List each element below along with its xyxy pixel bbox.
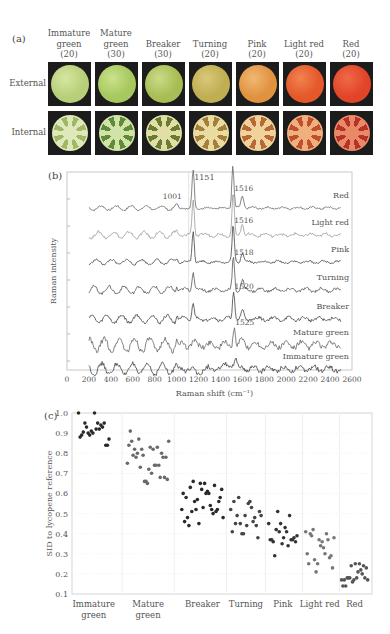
- stage-name-line2: Turning: [186, 39, 234, 50]
- x-category-label: Pink: [273, 599, 293, 609]
- data-point: [354, 562, 358, 566]
- x-category-label: Red: [346, 599, 363, 609]
- data-point: [107, 437, 111, 441]
- data-point: [232, 500, 236, 504]
- data-point: [285, 530, 289, 534]
- stage-header: Turning(20): [186, 28, 234, 60]
- stage-sample-count: (20): [233, 49, 281, 60]
- data-point: [189, 486, 193, 490]
- series-label: Red: [333, 191, 349, 200]
- spectrum-line: [89, 257, 341, 294]
- data-point: [137, 437, 141, 441]
- tomato-exterior: [333, 65, 371, 103]
- stage-header: Breaker(30): [139, 28, 187, 60]
- y-tick-label: 0.4: [55, 530, 68, 539]
- x-tick-label: 2200: [299, 375, 318, 384]
- data-point: [313, 558, 317, 562]
- stage-name-line1: Mature: [92, 28, 140, 39]
- data-point: [194, 508, 198, 512]
- tomato-cross-section: [240, 115, 276, 151]
- y-axis-label: SID to lycopene reference: [45, 450, 54, 556]
- data-point: [273, 554, 277, 558]
- data-point: [211, 512, 215, 516]
- data-point: [229, 508, 233, 512]
- data-point: [101, 425, 105, 429]
- data-point: [85, 425, 89, 429]
- data-point: [183, 520, 187, 524]
- y-tick-label: 0.3: [55, 550, 68, 559]
- series-label: Light red: [311, 218, 349, 227]
- data-point: [245, 524, 249, 528]
- data-point: [197, 522, 201, 526]
- x-category-label: green: [136, 610, 162, 620]
- data-point: [203, 482, 207, 486]
- data-point: [106, 443, 110, 447]
- external-photo: [189, 62, 232, 106]
- data-point: [139, 466, 143, 470]
- series-label: Turning: [317, 273, 349, 282]
- stage-name-line1: [139, 28, 187, 39]
- stage-header: Red(20): [327, 28, 375, 60]
- data-point: [344, 584, 348, 588]
- data-point: [282, 536, 286, 540]
- x-tick-label: 2600: [342, 375, 361, 384]
- data-point: [280, 542, 284, 546]
- x-tick-label: 1400: [211, 375, 230, 384]
- data-point: [180, 508, 184, 512]
- data-point: [271, 540, 275, 544]
- data-point: [292, 536, 296, 540]
- data-point: [326, 538, 330, 542]
- data-point: [274, 528, 278, 532]
- data-point: [187, 524, 191, 528]
- data-point: [348, 576, 352, 580]
- stage-name-line2: green: [45, 39, 93, 50]
- data-point: [91, 431, 95, 435]
- y-tick-label: 1.0: [55, 409, 68, 418]
- peak-annotation: 1513: [234, 165, 253, 166]
- data-point: [304, 530, 308, 534]
- data-point: [134, 455, 138, 459]
- peak-annotation: 1516: [234, 184, 253, 193]
- stage-sample-count: (30): [92, 49, 140, 60]
- raman-spectra-chart: 0200400600800100012001400160018002000220…: [0, 165, 390, 405]
- row-label-external: External: [2, 78, 46, 88]
- data-point: [325, 532, 329, 536]
- y-tick-label: 0.7: [55, 469, 68, 478]
- data-point: [166, 478, 170, 482]
- x-tick-label: 2400: [321, 375, 340, 384]
- data-point: [305, 552, 309, 556]
- tomato-cross-section: [146, 115, 182, 151]
- x-category-label: Light red: [300, 599, 340, 609]
- data-point: [250, 506, 254, 510]
- y-tick-label: 0.8: [55, 449, 68, 458]
- stage-sample-count: (20): [327, 49, 375, 60]
- row-label-internal: Internal: [2, 127, 46, 137]
- y-tick-label: 0.1: [55, 590, 68, 599]
- stage-sample-count: (20): [280, 49, 328, 60]
- data-point: [323, 552, 327, 556]
- data-point: [316, 562, 320, 566]
- x-tick-label: 0: [65, 375, 70, 384]
- data-point: [94, 427, 98, 431]
- spectrum-line: [89, 292, 341, 324]
- x-tick-label: 1200: [189, 375, 208, 384]
- data-point: [146, 482, 150, 486]
- data-point: [167, 439, 171, 443]
- data-point: [248, 500, 252, 504]
- data-point: [277, 530, 281, 534]
- data-point: [239, 522, 243, 526]
- data-point: [186, 516, 190, 520]
- peak-annotation: 1001: [163, 192, 182, 201]
- internal-photo: [48, 111, 91, 155]
- data-point: [129, 429, 133, 433]
- internal-photo: [236, 111, 279, 155]
- data-point: [234, 522, 238, 526]
- data-point: [199, 482, 203, 486]
- data-point: [93, 411, 97, 415]
- data-point: [82, 430, 86, 434]
- data-point: [181, 492, 185, 496]
- stage-sample-count: (20): [186, 49, 234, 60]
- stage-header: Light red(20): [280, 28, 328, 60]
- tomato-exterior: [286, 65, 324, 103]
- data-point: [267, 522, 271, 526]
